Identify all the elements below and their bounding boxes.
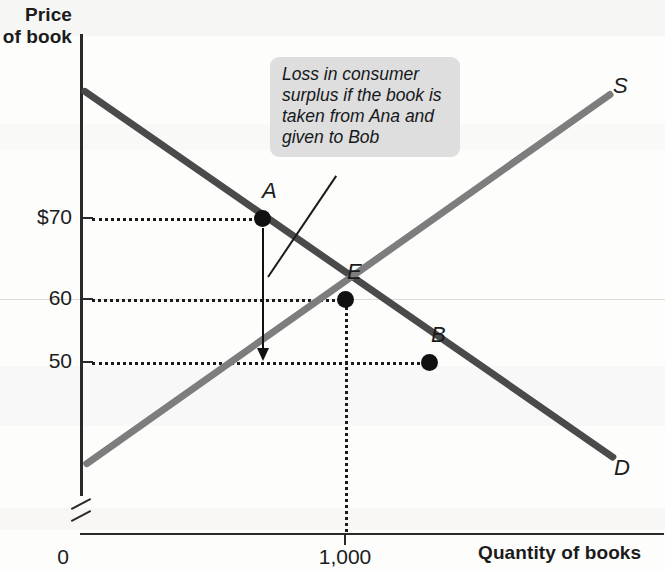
demand-curve-label: D (614, 455, 630, 481)
x-tick-label-0: 0 (45, 545, 81, 569)
guide-line-quantity-1000 (345, 300, 348, 532)
data-point-e (337, 291, 354, 308)
page-texture-band (0, 0, 665, 36)
guide-line-price-70 (92, 218, 264, 221)
x-tick-mark-1000 (344, 534, 346, 545)
loss-arrow-shaft (262, 228, 264, 351)
y-axis-title: Price of book (6, 4, 72, 48)
y-axis-title-line1: Price (6, 4, 72, 26)
data-point-b (421, 354, 438, 371)
y-tick-label-50: 50 (0, 349, 72, 373)
supply-curve-label: S (613, 73, 628, 99)
page-texture-band (0, 508, 665, 530)
y-tick-label-70: $70 (0, 205, 72, 229)
x-axis (80, 533, 664, 535)
y-tick-label-60: 60 (0, 286, 72, 310)
y-axis (80, 34, 83, 496)
chart-figure: Price of book Quantity of books $70 60 5… (0, 0, 665, 571)
x-axis-title: Quantity of books (478, 542, 641, 564)
x-tick-label-1000: 1,000 (300, 545, 390, 569)
data-point-a (254, 210, 271, 227)
data-point-a-label: A (262, 178, 277, 204)
data-point-b-label: B (431, 322, 446, 348)
annotation-callout: Loss in consumer surplus if the book is … (270, 57, 460, 157)
page-texture-band (0, 366, 665, 426)
y-axis-title-line2: of book (0, 26, 72, 48)
annotation-callout-text: Loss in consumer surplus if the book is … (282, 64, 442, 147)
data-point-e-label: E (347, 259, 362, 285)
loss-arrow-head (257, 348, 269, 361)
guide-line-price-50 (92, 362, 432, 365)
